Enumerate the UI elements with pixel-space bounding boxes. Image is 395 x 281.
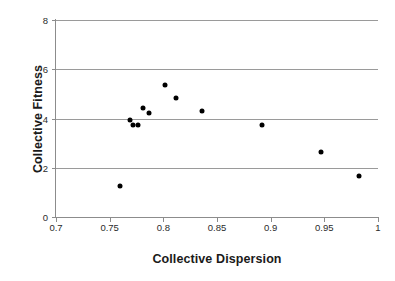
data-point (260, 122, 265, 127)
x-tick-label: 1 (356, 222, 395, 233)
x-tick-label: 0.95 (302, 222, 346, 233)
x-tick-label: 0.8 (141, 222, 185, 233)
gridline-y (56, 168, 378, 169)
x-tick-mark (163, 218, 164, 222)
scatter-chart: Collective Fitness Collective Dispersion… (0, 0, 395, 281)
data-point (147, 110, 152, 115)
x-tick-mark (378, 218, 379, 222)
x-tick-mark (217, 218, 218, 222)
gridline-y (56, 119, 378, 120)
data-point (319, 150, 324, 155)
data-point (174, 95, 179, 100)
gridline-y (56, 69, 378, 70)
x-tick-label: 0.9 (249, 222, 293, 233)
x-tick-label: 0.85 (195, 222, 239, 233)
plot-area (56, 20, 378, 217)
data-point (356, 173, 361, 178)
x-tick-mark (56, 218, 57, 222)
data-point (199, 109, 204, 114)
x-tick-label: 0.7 (34, 222, 78, 233)
data-point (140, 105, 145, 110)
data-point (128, 117, 133, 122)
data-point (135, 123, 140, 128)
data-point (118, 184, 123, 189)
x-tick-mark (271, 218, 272, 222)
x-tick-mark (110, 218, 111, 222)
data-point (163, 83, 168, 88)
gridline-y (56, 20, 378, 21)
x-tick-mark (324, 218, 325, 222)
x-tick-label: 0.75 (88, 222, 132, 233)
